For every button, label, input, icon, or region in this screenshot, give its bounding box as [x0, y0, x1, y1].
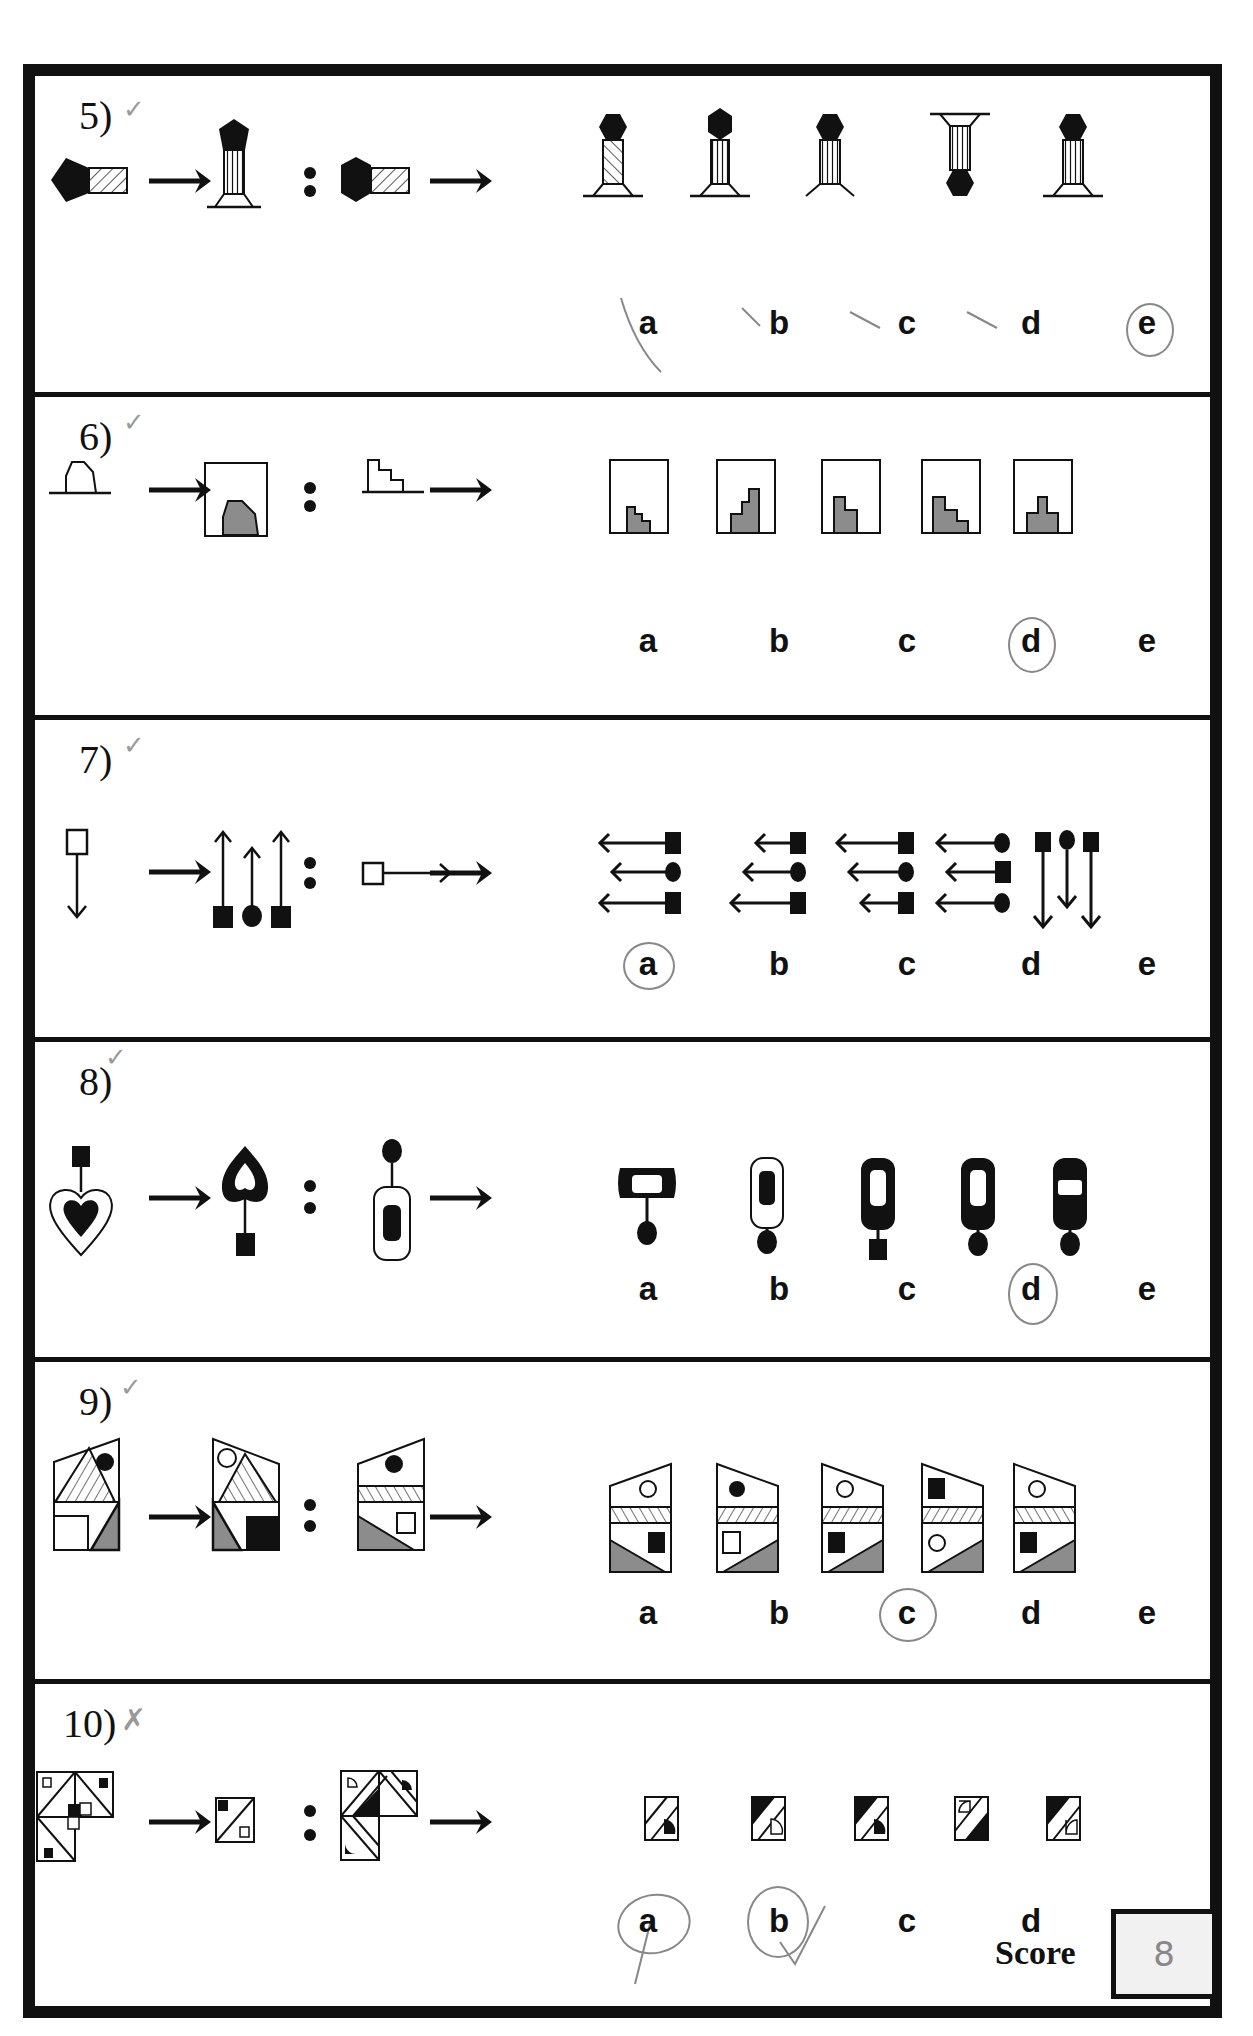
analogy-figures: [35, 720, 1210, 1042]
option-c-figure: [855, 1797, 888, 1840]
score-box: 8: [1111, 1909, 1217, 1999]
option-b[interactable]: b: [759, 304, 799, 342]
figure-boxed-shaded-mound: [205, 463, 267, 536]
arrow-icon: [149, 1186, 211, 1210]
answer-circle: [747, 1886, 809, 1958]
option-c[interactable]: c: [887, 622, 927, 660]
option-a-figure: [583, 114, 643, 196]
arrow-icon: [149, 860, 211, 884]
question-5: 5) ✓: [35, 76, 1210, 397]
option-a[interactable]: a: [628, 304, 668, 342]
option-c[interactable]: c: [887, 1270, 927, 1308]
option-e[interactable]: e: [1127, 622, 1167, 660]
answer-circle: [879, 1588, 937, 1642]
figure-outline-steps: [362, 460, 424, 492]
option-a-figure: [610, 460, 668, 533]
option-d-figure: [955, 1797, 988, 1840]
figure-spade-with-square: [222, 1146, 268, 1256]
option-b-figure: [690, 108, 750, 196]
option-c[interactable]: c: [887, 1902, 927, 1940]
score-value: 8: [1153, 1934, 1175, 1974]
answer-circle: [1008, 617, 1056, 673]
option-e-figure: [1043, 114, 1103, 196]
figure-three-up-arrows: [215, 832, 289, 906]
option-b-figure: [717, 460, 775, 533]
option-d[interactable]: d: [1011, 1594, 1051, 1632]
option-c-figure: [837, 834, 900, 912]
option-a[interactable]: a: [628, 622, 668, 660]
option-b[interactable]: b: [759, 1594, 799, 1632]
answer-circle: [1008, 1263, 1058, 1325]
arrow-icon: [149, 169, 211, 193]
option-e-figure: [1053, 1158, 1087, 1256]
option-e[interactable]: e: [1127, 1270, 1167, 1308]
arrow-icon: [430, 1810, 492, 1834]
question-9: 9) ✓: [35, 1362, 1210, 1684]
option-b-figure: [731, 834, 792, 912]
option-a-figure: [645, 1797, 678, 1840]
figure-house-b: [213, 1439, 279, 1550]
arrow-icon: [149, 1810, 211, 1834]
option-e-figure: [1014, 1464, 1075, 1572]
question-7: 7) ✓: [35, 720, 1210, 1042]
option-d-figure: [961, 1158, 995, 1256]
option-c-figure: [861, 1158, 895, 1260]
option-a-figure: [618, 1168, 676, 1245]
option-c-figure: [806, 114, 854, 196]
arrow-icon: [149, 1505, 211, 1529]
figure-pentagon-horizontal: [51, 158, 127, 202]
analogy-figures: [35, 1362, 1210, 1684]
question-6: 6) ✓: [35, 397, 1210, 720]
option-a[interactable]: a: [628, 1270, 668, 1308]
option-a-figure: [610, 1464, 671, 1572]
option-e-figure: [1047, 1797, 1080, 1840]
figure-heart-with-square: [50, 1146, 112, 1255]
option-c-figure: [822, 460, 880, 533]
option-d-figure: [930, 114, 990, 196]
question-10: 10) ✗: [35, 1684, 1210, 2006]
figure-pentagon-vertical: [207, 119, 261, 207]
option-c[interactable]: c: [887, 304, 927, 342]
worksheet-frame: 5) ✓: [23, 64, 1222, 2018]
answer-circle: [1126, 303, 1174, 357]
option-b[interactable]: b: [759, 622, 799, 660]
analogy-figures: [35, 76, 1210, 397]
figure-hexagon-horizontal: [341, 157, 409, 202]
arrow-icon: [430, 861, 492, 885]
option-b[interactable]: b: [759, 1270, 799, 1308]
option-b-figure: [752, 1797, 785, 1840]
option-d-figure: [922, 1464, 983, 1572]
option-e[interactable]: e: [1127, 945, 1167, 983]
option-e[interactable]: e: [1127, 1594, 1167, 1632]
option-d[interactable]: d: [1011, 304, 1051, 342]
score-label: Score: [995, 1934, 1076, 1972]
figure-capsule-with-circle: [374, 1139, 410, 1260]
option-b[interactable]: b: [759, 945, 799, 983]
option-e-figure: [1034, 850, 1100, 927]
question-8: 8) ✓: [35, 1042, 1210, 1362]
option-a-figure: [600, 834, 667, 912]
arrow-icon: [430, 478, 492, 502]
figure-outline-mound: [49, 462, 111, 493]
figure-house-a: [54, 1439, 119, 1550]
option-b-figure: [751, 1158, 783, 1254]
answer-circle: [623, 942, 675, 990]
option-c[interactable]: c: [887, 945, 927, 983]
option-c-figure: [822, 1464, 883, 1572]
option-d[interactable]: d: [1011, 945, 1051, 983]
figure-house-c: [358, 1439, 424, 1550]
arrow-icon: [430, 169, 492, 193]
option-a[interactable]: a: [628, 1594, 668, 1632]
figure-square-down-arrow: [67, 830, 87, 917]
arrow-icon: [149, 478, 211, 502]
arrow-icon: [430, 1505, 492, 1529]
option-d-figure: [937, 834, 997, 912]
option-b-figure: [717, 1464, 778, 1572]
option-d-figure: [922, 460, 980, 533]
option-e-figure: [1014, 460, 1072, 533]
arrow-icon: [430, 1186, 492, 1210]
figure-small-square-b: [216, 1798, 254, 1842]
